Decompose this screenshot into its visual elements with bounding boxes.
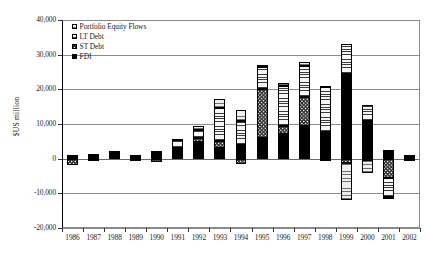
x-tick-label-2002: 2002 (399, 233, 420, 242)
x-tick-mark (230, 228, 231, 232)
bar-segment-lt-debt-1994[interactable] (236, 121, 247, 145)
x-tick-label-1992: 1992 (188, 233, 209, 242)
bar-segment-lt-debt-1995[interactable] (257, 67, 268, 88)
bar-segment-fdi-1997[interactable] (299, 126, 310, 159)
legend-item-st-debt[interactable]: ST Debt (72, 42, 187, 52)
x-tick-mark (336, 228, 337, 232)
bar-segment-portfolio-equity-flows-1988[interactable] (109, 151, 120, 153)
legend-item-portfolio-equity-flows[interactable]: Portfolio Equity Flows (72, 22, 187, 32)
bar-segment-st-debt-1997[interactable] (299, 97, 310, 126)
bar-group-2000[interactable] (362, 20, 373, 228)
bar-group-1999[interactable] (341, 20, 352, 228)
bar-segment-lt-debt-2001[interactable] (383, 178, 394, 197)
bar-segment-portfolio-equity-flows-1999[interactable] (341, 163, 352, 200)
x-tick-mark (315, 228, 316, 232)
bar-segment-portfolio-equity-flows-1994[interactable] (236, 110, 247, 121)
x-tick-label-1993: 1993 (209, 233, 230, 242)
x-tick-label-1994: 1994 (230, 233, 251, 242)
bar-segment-st-debt-1987[interactable] (88, 159, 99, 161)
x-tick-label-1999: 1999 (336, 233, 357, 242)
y-tick-label: 0 (0, 155, 56, 163)
bar-group-1997[interactable] (299, 20, 310, 228)
bar-segment-fdi-1991[interactable] (172, 149, 183, 159)
horizontal-lines-swatch-icon (72, 34, 77, 39)
bar-segment-st-debt-2001[interactable] (383, 159, 394, 178)
bar-segment-portfolio-equity-flows-2000[interactable] (362, 160, 373, 173)
bar-group-1998[interactable] (320, 20, 331, 228)
bar-group-1992[interactable] (193, 20, 204, 228)
bar-segment-portfolio-equity-flows-1995[interactable] (257, 65, 268, 67)
bar-segment-portfolio-equity-flows-1993[interactable] (214, 99, 225, 108)
bar-group-1995[interactable] (257, 20, 268, 228)
bar-group-2002[interactable] (404, 20, 415, 228)
bar-segment-st-debt-1994[interactable] (236, 159, 247, 164)
x-tick-mark (378, 228, 379, 232)
bar-segment-fdi-1998[interactable] (320, 132, 331, 159)
bar-segment-fdi-1994[interactable] (236, 145, 247, 159)
bar-segment-st-debt-1993[interactable] (214, 141, 225, 148)
chart-figure: $US million 40,00030,00020,00010,0000-10… (0, 0, 429, 264)
bar-segment-fdi-1992[interactable] (193, 142, 204, 159)
legend-item-label: ST Debt (80, 43, 104, 51)
bar-segment-fdi-2001[interactable] (383, 150, 394, 159)
y-tick-label: -20,000 (0, 224, 56, 232)
bar-segment-st-debt-1990[interactable] (151, 159, 162, 163)
x-tick-mark (209, 228, 210, 232)
bar-segment-lt-debt-2000[interactable] (362, 105, 373, 120)
bar-segment-portfolio-equity-flows-2001[interactable] (383, 197, 394, 199)
bar-segment-portfolio-equity-flows-1987[interactable] (88, 154, 99, 156)
bar-segment-portfolio-equity-flows-1992[interactable] (193, 126, 204, 130)
bar-segment-st-debt-1998[interactable] (320, 159, 331, 162)
bar-segment-portfolio-equity-flows-1986[interactable] (67, 155, 78, 157)
bar-segment-lt-debt-1997[interactable] (299, 66, 310, 97)
bar-segment-st-debt-1986[interactable] (67, 159, 78, 165)
x-tick-label-1987: 1987 (83, 233, 104, 242)
chart-legend: Portfolio Equity FlowsLT DebtST DebtFDI (72, 22, 187, 62)
bar-segment-portfolio-equity-flows-1991[interactable] (172, 139, 183, 141)
bar-segment-lt-debt-1999[interactable] (341, 44, 352, 73)
y-tick-label: 10,000 (0, 120, 56, 128)
x-tick-mark (167, 228, 168, 232)
bar-segment-st-debt-1989[interactable] (130, 159, 141, 161)
bar-segment-lt-debt-1992[interactable] (193, 130, 204, 138)
bar-segment-portfolio-equity-flows-1996[interactable] (278, 83, 289, 86)
bar-group-1994[interactable] (236, 20, 247, 228)
bar-segment-fdi-1995[interactable] (257, 138, 268, 159)
bar-segment-st-debt-1995[interactable] (257, 89, 268, 138)
legend-item-label: Portfolio Equity Flows (80, 23, 147, 31)
x-tick-label-1995: 1995 (252, 233, 273, 242)
y-tick-label: 40,000 (0, 16, 56, 24)
bar-group-1993[interactable] (214, 20, 225, 228)
bar-segment-fdi-1999[interactable] (341, 74, 352, 159)
x-tick-mark (420, 228, 421, 232)
legend-item-lt-debt[interactable]: LT Debt (72, 32, 187, 42)
legend-item-label: LT Debt (80, 33, 104, 41)
bar-segment-portfolio-equity-flows-1990[interactable] (151, 151, 162, 153)
x-tick-label-2000: 2000 (357, 233, 378, 242)
solid-black-swatch-icon (72, 54, 77, 59)
bar-segment-portfolio-equity-flows-1997[interactable] (299, 62, 310, 67)
bar-segment-st-debt-1991[interactable] (172, 148, 183, 150)
bar-segment-lt-debt-1998[interactable] (320, 87, 331, 132)
bar-segment-lt-debt-1996[interactable] (278, 86, 289, 127)
x-tick-mark (146, 228, 147, 232)
bar-segment-fdi-2000[interactable] (362, 121, 373, 159)
bar-segment-st-debt-2002[interactable] (404, 159, 415, 161)
legend-item-fdi[interactable]: FDI (72, 52, 187, 62)
x-tick-label-1991: 1991 (167, 233, 188, 242)
bar-group-2001[interactable] (383, 20, 394, 228)
bar-segment-lt-debt-1993[interactable] (214, 108, 225, 141)
bar-segment-fdi-1996[interactable] (278, 134, 289, 159)
bar-segment-portfolio-equity-flows-2002[interactable] (404, 155, 415, 157)
bar-segment-portfolio-equity-flows-1989[interactable] (130, 155, 141, 157)
x-tick-mark (294, 228, 295, 232)
bar-segment-fdi-1993[interactable] (214, 148, 225, 159)
x-tick-mark (252, 228, 253, 232)
bar-segment-st-debt-1996[interactable] (278, 126, 289, 133)
bar-segment-st-debt-1992[interactable] (193, 138, 204, 142)
bar-group-1996[interactable] (278, 20, 289, 228)
x-tick-mark (104, 228, 105, 232)
x-tick-mark (125, 228, 126, 232)
x-tick-label-1989: 1989 (125, 233, 146, 242)
bar-segment-portfolio-equity-flows-1998[interactable] (320, 86, 331, 88)
